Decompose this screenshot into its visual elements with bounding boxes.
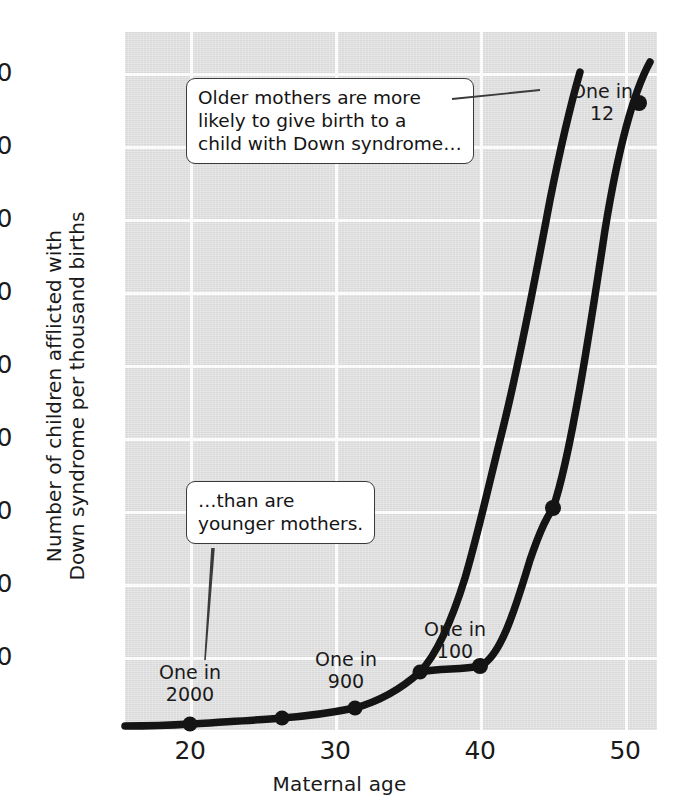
- gridline-y-20: [125, 584, 657, 587]
- callout-older-line-2: likely to give birth to a: [198, 109, 462, 132]
- callout-older-line-1: Older mothers are more: [198, 86, 462, 109]
- callout-older-line-3: child with Down syndrome…: [198, 132, 462, 155]
- xtick-20: 20: [155, 737, 225, 765]
- annotation-one-in-100-line-1: One in: [395, 618, 515, 640]
- callout-younger-mothers: …than are younger mothers.: [186, 481, 375, 544]
- ytick-60: 60: [0, 279, 12, 304]
- ytick-70: 70: [0, 206, 12, 231]
- callout-younger-line-1: …than are: [198, 489, 363, 512]
- gridline-y-70: [125, 219, 657, 222]
- annotation-one-in-900-line-2: 900: [286, 670, 406, 692]
- gridline-x-50: [625, 32, 628, 730]
- annotation-one-in-900: One in 900: [286, 648, 406, 692]
- y-axis-title-line-1: Number of children afflicted with: [43, 76, 66, 716]
- gridline-y-50: [125, 365, 657, 368]
- xtick-30: 30: [300, 737, 370, 765]
- gridline-y-40: [125, 438, 657, 441]
- annotation-one-in-12: One in 12: [547, 80, 657, 124]
- down-syndrome-incidence-chart: 90 80 70 60 50 40 30 20 10 20 30 40 50 M…: [0, 0, 679, 805]
- ytick-80: 80: [0, 133, 12, 158]
- annotation-one-in-100-line-2: 100: [395, 640, 515, 662]
- annotation-one-in-2000-line-2: 2000: [130, 683, 250, 705]
- annotation-one-in-12-line-1: One in: [547, 80, 657, 102]
- gridline-y-60: [125, 292, 657, 295]
- ytick-20: 20: [0, 571, 12, 596]
- ytick-30: 30: [0, 498, 12, 523]
- annotation-one-in-2000: One in 2000: [130, 661, 250, 705]
- xtick-50: 50: [590, 737, 660, 765]
- y-axis-title: Number of children afflicted with Down s…: [43, 76, 89, 716]
- xtick-40: 40: [445, 737, 515, 765]
- annotation-one-in-100: One in 100: [395, 618, 515, 662]
- ytick-10: 10: [0, 644, 12, 669]
- ytick-50: 50: [0, 352, 12, 377]
- ytick-40: 40: [0, 425, 12, 450]
- ytick-90: 90: [0, 60, 12, 85]
- annotation-one-in-12-line-2: 12: [547, 102, 657, 124]
- gridline-y-90: [125, 73, 657, 76]
- callout-older-mothers: Older mothers are more likely to give bi…: [186, 78, 474, 164]
- y-axis-title-line-2: Down syndrome per thousand births: [66, 76, 89, 716]
- x-axis-title: Maternal age: [0, 772, 679, 796]
- callout-younger-line-2: younger mothers.: [198, 512, 363, 535]
- annotation-one-in-2000-line-1: One in: [130, 661, 250, 683]
- annotation-one-in-900-line-1: One in: [286, 648, 406, 670]
